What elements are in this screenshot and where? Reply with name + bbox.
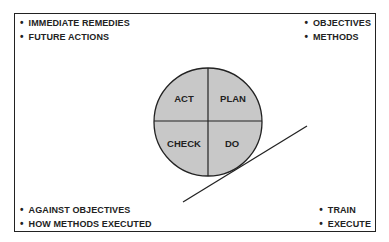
quadrant-act: ACT xyxy=(174,93,194,104)
quadrant-check: CHECK xyxy=(167,138,201,149)
quadrant-plan: PLAN xyxy=(220,93,246,104)
pdca-wheel: ACT PLAN CHECK DO xyxy=(0,0,389,242)
quadrant-do: DO xyxy=(225,138,239,149)
